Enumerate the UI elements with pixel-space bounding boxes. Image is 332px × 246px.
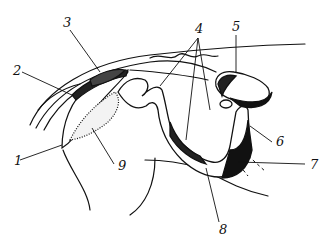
label-7: 7 bbox=[310, 157, 319, 172]
label-9: 9 bbox=[118, 158, 126, 173]
label-2: 2 bbox=[12, 63, 21, 78]
anatomical-diagram: 1 2 3 4 5 6 7 8 9 bbox=[0, 0, 332, 246]
label-4: 4 bbox=[194, 21, 203, 36]
label-5: 5 bbox=[232, 19, 240, 34]
label-1: 1 bbox=[14, 153, 22, 168]
label-6: 6 bbox=[276, 134, 284, 149]
label-3: 3 bbox=[63, 15, 71, 30]
organ-right bbox=[216, 72, 272, 108]
organ-left bbox=[62, 69, 128, 148]
label-8: 8 bbox=[219, 222, 227, 237]
